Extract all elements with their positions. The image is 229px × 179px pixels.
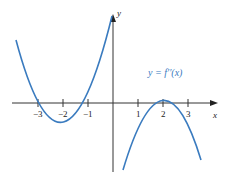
tick-label: −2 xyxy=(58,109,68,119)
tick-label: −3 xyxy=(33,109,43,119)
x-axis-arrow-icon xyxy=(210,100,218,106)
tick-label: 3 xyxy=(186,109,191,119)
y-axis-label: y xyxy=(116,8,121,18)
tick-label: 2 xyxy=(161,109,166,119)
tick-label: −1 xyxy=(83,109,93,119)
tick-label: 1 xyxy=(136,109,141,119)
left-parabola-curve xyxy=(16,16,112,122)
chart: −3 −2 −1 1 2 3 x y y = f′′(x) xyxy=(0,0,229,179)
function-label: y = f′′(x) xyxy=(147,67,183,79)
x-axis-label: x xyxy=(212,110,217,120)
